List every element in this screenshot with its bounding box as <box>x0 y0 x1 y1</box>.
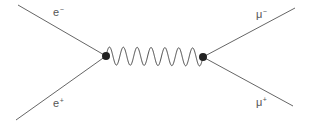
label-muon-minus: μ− <box>256 8 267 20</box>
electron-symbol: e <box>53 6 59 18</box>
muon-minus-symbol: μ <box>256 8 262 20</box>
photon-propagator <box>106 47 203 66</box>
positron-symbol: e <box>53 97 59 109</box>
muon-plus-charge: + <box>263 96 267 103</box>
positron-line <box>16 56 106 120</box>
positron-charge: + <box>60 97 64 104</box>
electron-charge: − <box>60 6 64 13</box>
label-positron: e+ <box>53 97 64 109</box>
label-electron: e− <box>53 6 64 18</box>
vertex-right <box>199 53 207 61</box>
vertex-left <box>102 52 110 60</box>
muon-plus-line <box>203 57 293 106</box>
muon-plus-symbol: μ <box>256 96 262 108</box>
muon-minus-line <box>203 8 295 57</box>
muon-minus-charge: − <box>263 8 267 15</box>
label-muon-plus: μ+ <box>256 96 267 108</box>
